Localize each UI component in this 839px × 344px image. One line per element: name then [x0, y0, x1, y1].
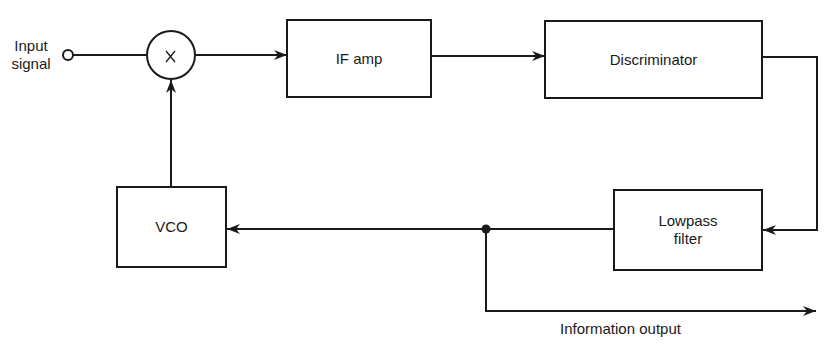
information-output-label: Information output	[560, 320, 681, 338]
junction-dot	[482, 225, 491, 234]
input-terminal	[63, 50, 73, 60]
input-label-line1: Input	[6, 37, 56, 55]
lowpass-label-line1: Lowpass	[658, 212, 717, 230]
input-label-line2: signal	[6, 55, 56, 73]
input-signal-label: Input signal	[6, 37, 56, 73]
if-amp-label: IF amp	[287, 20, 431, 97]
discriminator-label: Discriminator	[545, 21, 762, 98]
vco-label: VCO	[117, 187, 226, 267]
lowpass-filter-label: Lowpass filter	[614, 190, 762, 270]
lowpass-label-line2: filter	[674, 230, 702, 248]
wire-discriminator-lowpass	[762, 57, 817, 230]
